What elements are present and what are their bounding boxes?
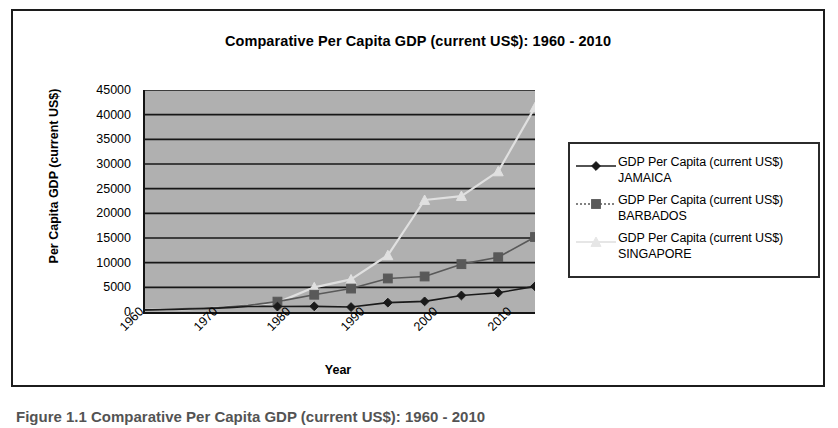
y-tick-label: 15000	[53, 232, 131, 244]
diamond-marker	[592, 162, 601, 171]
y-tick-label: 45000	[53, 84, 131, 96]
series-line	[145, 107, 535, 310]
y-tick-label: 40000	[53, 109, 131, 121]
diamond-marker	[494, 288, 503, 297]
square-marker	[420, 272, 429, 281]
diamond-marker	[531, 282, 535, 291]
figure-caption: Figure 1.1 Comparative Per Capita GDP (c…	[16, 408, 822, 428]
plot-area	[143, 90, 535, 314]
legend-item[interactable]: GDP Per Capita (current US$) BARBADOS	[574, 193, 814, 224]
legend-label: GDP Per Capita (current US$) SINGAPORE	[618, 231, 814, 262]
diamond-marker	[310, 302, 319, 311]
y-tick-label: 10000	[53, 257, 131, 269]
y-tick-label: 30000	[53, 158, 131, 170]
square-marker	[383, 274, 392, 283]
chart-title: Comparative Per Capita GDP (current US$)…	[13, 33, 823, 49]
triangle-marker	[530, 102, 535, 111]
x-axis-title: Year	[143, 363, 533, 377]
triangle-marker	[574, 231, 618, 261]
diamond-marker	[383, 298, 392, 307]
diamond-marker	[574, 155, 618, 185]
chart-legend: GDP Per Capita (current US$) JAMAICAGDP …	[568, 142, 820, 278]
y-tick-label: 0	[53, 306, 131, 318]
y-tick-label: 35000	[53, 133, 131, 145]
legend-item[interactable]: GDP Per Capita (current US$) JAMAICA	[574, 155, 814, 186]
square-marker	[494, 253, 503, 262]
diamond-marker	[420, 297, 429, 306]
square-marker	[457, 260, 466, 269]
chart-frame: Comparative Per Capita GDP (current US$)…	[11, 9, 825, 387]
legend-label: GDP Per Capita (current US$) JAMAICA	[618, 155, 814, 186]
square-marker	[574, 193, 618, 223]
y-tick-label: 5000	[53, 281, 131, 293]
plot-svg	[145, 90, 535, 312]
triangle-marker	[493, 166, 503, 175]
legend-item[interactable]: GDP Per Capita (current US$) SINGAPORE	[574, 231, 814, 262]
square-marker	[310, 290, 319, 299]
legend-label: GDP Per Capita (current US$) BARBADOS	[618, 193, 814, 224]
series-line	[145, 237, 535, 310]
y-axis-tick-labels: 4500040000350003000025000200001500010000…	[53, 90, 131, 312]
square-marker	[531, 233, 535, 242]
square-marker	[347, 284, 356, 293]
square-marker	[592, 200, 601, 209]
y-tick-label: 25000	[53, 183, 131, 195]
y-tick-label: 20000	[53, 207, 131, 219]
diamond-marker	[457, 291, 466, 300]
